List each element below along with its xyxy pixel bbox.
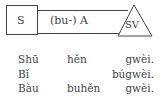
example-subject: Shū — [18, 53, 39, 66]
example-row: Bàu buhěn gwèi. — [18, 82, 154, 95]
example-row: Shū hěn gwèi. — [18, 53, 154, 66]
example-subject: Bàu — [18, 82, 39, 95]
example-row: Bǐ búgwèi. — [18, 68, 154, 81]
example-subject: Bǐ — [18, 68, 29, 81]
example-adverb: buhěn — [67, 82, 100, 95]
example-adverb: hěn — [67, 53, 87, 66]
subject-label: S — [17, 15, 25, 26]
example-verb: gwèi. — [125, 53, 154, 66]
adjective-label: (bu-) A — [50, 15, 88, 26]
sv-label: SV — [125, 19, 139, 30]
example-verb: búgwèi. — [112, 68, 154, 81]
example-verb: gwèi. — [125, 82, 154, 95]
